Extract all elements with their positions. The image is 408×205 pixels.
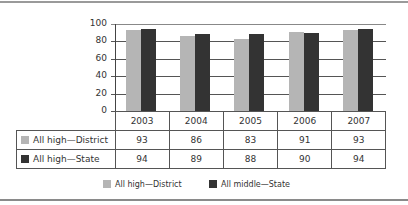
bar: [343, 30, 358, 111]
table-cell: 94: [115, 150, 169, 169]
gridline: [111, 24, 386, 25]
bar: [126, 30, 141, 111]
y-tick-label: 20: [77, 88, 107, 98]
table-header-year: 2005: [223, 112, 277, 131]
y-tick-label: 0: [77, 105, 107, 115]
legend-swatch-dark: [209, 180, 217, 188]
legend-label: All middle—State: [221, 180, 290, 189]
bar: [141, 29, 156, 111]
table-cell: 83: [223, 131, 277, 150]
gridline: [111, 111, 386, 112]
table-row: All high—District9386839193: [17, 131, 386, 150]
bar: [234, 39, 249, 111]
bar: [249, 34, 264, 111]
table-cell: 91: [278, 131, 332, 150]
legend-item-state: All middle—State: [209, 180, 290, 189]
legend-label: All high—District: [115, 180, 182, 189]
legend-swatch-light: [103, 180, 111, 188]
table-header-year: 2003: [115, 112, 169, 131]
row-swatch: [21, 136, 29, 144]
table-header-year: 2006: [278, 112, 332, 131]
frame-top-rule: [0, 1, 408, 3]
row-label: All high—State: [17, 150, 116, 169]
y-tick-label: 80: [77, 35, 107, 45]
table-cell: 93: [115, 131, 169, 150]
bar: [289, 32, 304, 111]
y-tick-label: 40: [77, 70, 107, 80]
table-cell: 90: [278, 150, 332, 169]
table-header-year: 2007: [332, 112, 386, 131]
row-swatch: [21, 155, 29, 163]
table-cell: 93: [332, 131, 386, 150]
frame-bottom-rule: [0, 199, 408, 201]
bar: [358, 29, 373, 111]
data-table: 20032004200520062007All high—District938…: [16, 111, 386, 169]
table-cell: 89: [169, 150, 223, 169]
table-header-year: 2004: [169, 112, 223, 131]
legend-item-district: All high—District: [103, 180, 182, 189]
y-axis: [115, 24, 116, 111]
table-cell: 88: [223, 150, 277, 169]
table-cell: 86: [169, 131, 223, 150]
chart-root: 20032004200520062007All high—District938…: [0, 0, 408, 205]
row-label: All high—District: [17, 131, 116, 150]
bar: [180, 36, 195, 111]
bar: [195, 34, 210, 111]
y-tick-label: 60: [77, 53, 107, 63]
y-tick-label: 100: [77, 18, 107, 28]
table-cell: 94: [332, 150, 386, 169]
bar: [304, 33, 319, 111]
table-row: All high—State9489889094: [17, 150, 386, 169]
